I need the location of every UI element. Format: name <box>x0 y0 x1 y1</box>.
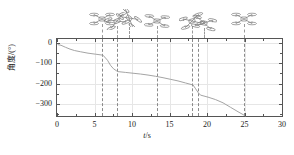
y-axis-tick-right <box>279 84 282 85</box>
y-axis-tick <box>57 63 60 64</box>
x-axis-minor-tick <box>226 114 227 116</box>
drone-annotation-stem <box>129 23 130 38</box>
x-tick-label: 30 <box>270 120 294 129</box>
x-axis-minor-tick <box>151 114 152 116</box>
x-axis-minor-tick-top <box>263 39 264 41</box>
x-axis-tick <box>170 113 171 116</box>
x-axis-minor-tick <box>76 114 77 116</box>
x-axis-tick-top <box>132 39 133 42</box>
y-axis-tick-right <box>279 104 282 105</box>
x-axis-minor-tick-top <box>151 39 152 41</box>
x-axis-tick-top <box>282 39 283 42</box>
drone-annotation-stem <box>157 26 158 38</box>
x-axis-tick <box>207 113 208 116</box>
y-axis-minor-tick-right <box>280 73 282 74</box>
x-tick-label: 10 <box>120 120 144 129</box>
x-axis-tick <box>282 113 283 116</box>
data-curve <box>57 39 284 118</box>
x-axis-minor-tick <box>113 114 114 116</box>
x-axis-minor-tick-top <box>113 39 114 41</box>
x-tick-label: 15 <box>158 120 182 129</box>
y-axis-minor-tick <box>57 94 59 95</box>
y-axis-minor-tick <box>57 114 59 115</box>
x-tick-label: 20 <box>195 120 219 129</box>
x-axis-tick-top <box>95 39 96 42</box>
x-axis-minor-tick <box>188 114 189 116</box>
y-axis-minor-tick-right <box>280 94 282 95</box>
x-axis-tick-top <box>207 39 208 42</box>
x-axis-tick-top <box>245 39 246 42</box>
y-tick-label: 0 <box>24 38 52 47</box>
drone-annotation-stem <box>204 28 205 38</box>
y-axis-minor-tick-right <box>280 53 282 54</box>
x-tick-label: 25 <box>233 120 257 129</box>
y-axis-tick-right <box>279 43 282 44</box>
x-axis-minor-tick <box>263 114 264 116</box>
x-axis-tick <box>95 113 96 116</box>
y-axis-title: 角度/(°) <box>5 26 16 90</box>
y-axis-minor-tick-right <box>280 114 282 115</box>
y-axis-tick <box>57 43 60 44</box>
drone-annotation-stem <box>102 24 103 38</box>
y-axis-tick-right <box>279 63 282 64</box>
y-axis-tick <box>57 104 60 105</box>
y-tick-label: −100 <box>24 58 52 67</box>
y-tick-label: −200 <box>24 79 52 88</box>
x-axis-tick-top <box>57 39 58 42</box>
y-axis-minor-tick <box>57 73 59 74</box>
y-axis-minor-tick <box>57 53 59 54</box>
x-axis-minor-tick-top <box>226 39 227 41</box>
drone-annotation-stem <box>244 24 245 38</box>
x-axis-tick-top <box>170 39 171 42</box>
y-axis-tick <box>57 84 60 85</box>
x-axis-minor-tick-top <box>76 39 77 41</box>
x-axis-title: yaw anglet/s <box>0 131 294 140</box>
x-tick-label: 0 <box>45 120 69 129</box>
plot-area <box>56 38 283 117</box>
x-axis-minor-tick-top <box>188 39 189 41</box>
x-tick-label: 5 <box>83 120 107 129</box>
x-axis-tick <box>245 113 246 116</box>
y-tick-label: −300 <box>24 99 52 108</box>
x-axis-tick <box>132 113 133 116</box>
figure-container: 051015202530 0−100−200−300 yaw anglet/s … <box>0 0 294 155</box>
